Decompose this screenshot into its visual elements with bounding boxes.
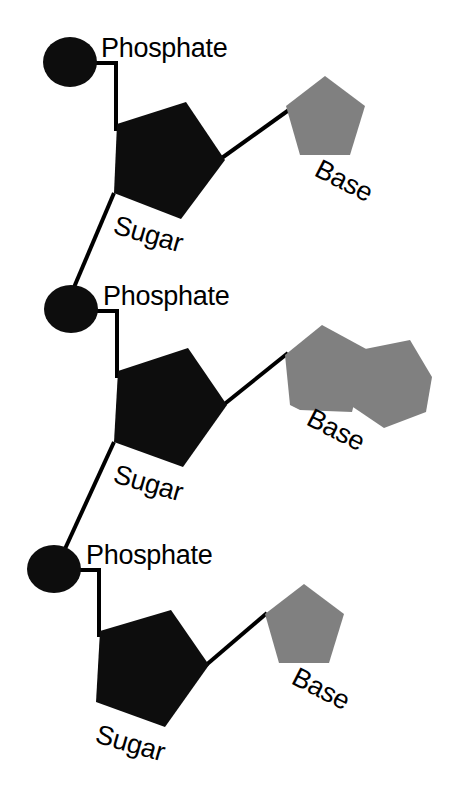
sugar-shape-1 <box>114 102 225 219</box>
phosphate-sugar-bond-1 <box>92 63 116 131</box>
base-shape-1 <box>286 76 365 155</box>
sugar-base-bond-3 <box>205 613 267 666</box>
sugar-base-bond-1 <box>219 107 293 160</box>
phosphate-label-2: Phosphate <box>103 281 229 311</box>
diagram-canvas: Phosphate Sugar Base Phosphate Sugar Bas… <box>0 0 461 785</box>
sugar-label-3: Sugar <box>92 719 168 767</box>
phosphate-sugar-bond-3 <box>77 570 99 637</box>
base-shape-2-ring-hexagon <box>350 340 432 428</box>
sugar-label-1: Sugar <box>110 210 186 258</box>
phosphate-label-1: Phosphate <box>101 33 227 63</box>
nucleotide-unit-3: Phosphate Sugar Base <box>27 540 355 767</box>
phosphate-label-3: Phosphate <box>86 540 212 570</box>
phosphate-shape-1 <box>43 37 97 87</box>
sugar-phosphate-backbone-bond-1 <box>72 193 114 292</box>
sugar-label-2: Sugar <box>110 459 186 507</box>
base-label-1: Base <box>310 154 377 208</box>
sugar-shape-2 <box>114 348 227 467</box>
base-shape-3 <box>265 584 344 663</box>
phosphate-shape-2 <box>44 285 98 333</box>
sugar-shape-3 <box>96 610 209 727</box>
nucleotide-chain-diagram: Phosphate Sugar Base Phosphate Sugar Bas… <box>0 0 461 785</box>
phosphate-sugar-bond-2 <box>94 311 117 378</box>
phosphate-shape-3 <box>27 545 81 593</box>
sugar-base-bond-2 <box>222 353 288 406</box>
nucleotide-unit-2: Phosphate Sugar Base <box>44 281 432 551</box>
nucleotide-unit-1: Phosphate Sugar Base <box>43 33 378 292</box>
sugar-phosphate-backbone-bond-2 <box>64 442 114 551</box>
base-label-3: Base <box>287 662 354 716</box>
